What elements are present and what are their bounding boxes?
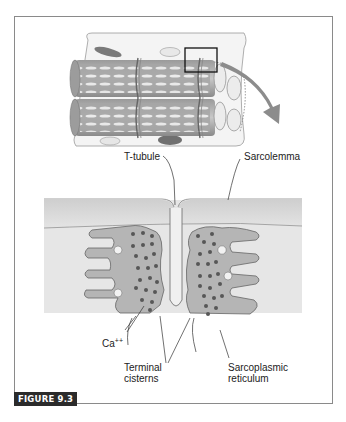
muscle-fiber-3d [70,33,280,146]
label-sarcoplasmic-reticulum: Sarcoplasmic reticulum [228,362,288,384]
label-terminal-cisterns: Terminal cisterns [124,362,162,384]
label-calcium: Ca++ [102,335,123,349]
figure-number-label: FIGURE 9.3 [14,392,77,406]
muscle-diagram [0,0,346,422]
sr-detail-view [44,156,302,363]
label-sarcolemma: Sarcolemma [244,151,300,162]
label-t-tubule: T-tubule [124,151,160,162]
